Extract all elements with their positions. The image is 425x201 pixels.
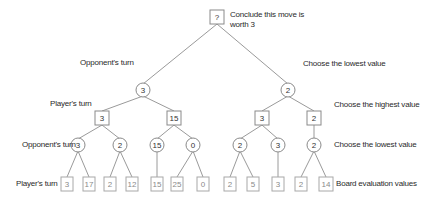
node-value: 3 (260, 114, 265, 123)
tree-edges (67, 24, 326, 177)
level1-node: 2 (281, 83, 295, 97)
node-value: 2 (238, 141, 243, 150)
node-value: 3 (141, 86, 146, 95)
leaf-value: 5 (251, 180, 256, 189)
leaf-node: 5 (247, 177, 259, 191)
leaf-value: 0 (201, 180, 206, 189)
leaf-node: 3 (272, 177, 284, 191)
right-label-level4: Board evaluation values (336, 179, 417, 189)
node-value: 2 (286, 86, 291, 95)
level2-node: 3 (95, 111, 109, 125)
leaf-node: 2 (295, 177, 307, 191)
level3-node: 2 (113, 138, 127, 152)
node-value: 15 (170, 114, 179, 123)
level2-node: 2 (307, 111, 321, 125)
right-label-level1: Choose the lowest value (303, 59, 386, 69)
leaf-value: 3 (65, 180, 70, 189)
node-value: 15 (153, 141, 162, 150)
leaf-value: 25 (173, 180, 182, 189)
node-value: 3 (76, 141, 81, 150)
leaf-node: 3 (61, 177, 73, 191)
node-value: 2 (312, 114, 317, 123)
level2-node: 15 (167, 111, 181, 125)
level3-node: 3 (271, 138, 285, 152)
level3-node: 0 (186, 138, 200, 152)
leaf-node: 25 (171, 177, 183, 191)
leaf-value: 12 (128, 180, 137, 189)
level3-node: 2 (307, 138, 321, 152)
leaf-value: 2 (228, 180, 233, 189)
node-value: 2 (312, 141, 317, 150)
leaf-node: 14 (319, 177, 333, 191)
leaf-node: 0 (197, 177, 209, 191)
right-label-level3: Choose the lowest value (334, 140, 417, 150)
right-label-level2: Choose the highest value (334, 100, 420, 110)
root-note-line2: worth 3 (230, 20, 255, 30)
leaf-node: 17 (83, 177, 95, 191)
leaf-value: 2 (299, 180, 304, 189)
level3-node: 2 (233, 138, 247, 152)
level2-node: 3 (255, 111, 269, 125)
node-value: 3 (276, 141, 281, 150)
leaf-value: 15 (153, 180, 162, 189)
node-value: 0 (191, 141, 196, 150)
root-node-value: ? (215, 13, 220, 22)
leaf-node: 2 (224, 177, 236, 191)
leaf-value: 2 (108, 180, 113, 189)
root-note-line1: Conclude this move is (230, 10, 304, 20)
leaf-value: 3 (276, 180, 281, 189)
leaf-value: 17 (85, 180, 94, 189)
node-value: 3 (100, 114, 105, 123)
left-label-level2: Player's turn (50, 99, 92, 109)
left-label-level1: Opponent's turn (80, 58, 134, 68)
level3-node: 15 (150, 138, 164, 152)
level1-node: 3 (136, 83, 150, 97)
leaf-node: 12 (126, 177, 138, 191)
leaf-node: 15 (151, 177, 163, 191)
root-node: ? (210, 10, 224, 24)
leaf-node: 2 (104, 177, 116, 191)
left-label-level3: Opponent's turn (22, 140, 76, 150)
left-label-level4: Player's turn (16, 179, 58, 189)
leaf-value: 14 (322, 180, 331, 189)
node-value: 2 (118, 141, 123, 150)
